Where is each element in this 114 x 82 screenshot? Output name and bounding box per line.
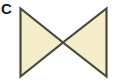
figure-container: C [0,0,114,82]
right-triangle-shape [63,9,107,77]
bowtie-diagram [0,0,114,82]
left-triangle-shape [21,9,64,77]
